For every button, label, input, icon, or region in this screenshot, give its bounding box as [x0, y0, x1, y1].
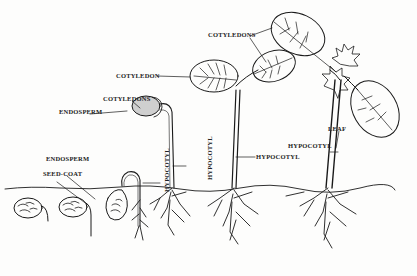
label-hypocotyl-stage4: HYPOCOTYL	[207, 136, 214, 180]
label-cotyledon: COTYLEDON	[116, 73, 160, 80]
label-leaf: LEAF	[328, 126, 346, 133]
label-hypocotyl-stage6: HYPOCOTYL	[288, 143, 332, 150]
label-cotyledons-mid: COTYLEDONS	[103, 96, 151, 103]
germination-diagram: COTYLEDON COTYLEDONS COTYLEDONS ENDOSPER…	[0, 0, 417, 276]
seed-stage-1	[14, 198, 48, 221]
seed-stage-2	[59, 197, 91, 236]
label-cotyledons-right: COTYLEDONS	[208, 32, 256, 39]
seedling-stage-3	[106, 172, 148, 240]
label-endosperm-lower: ENDOSPERM	[46, 156, 89, 163]
label-endosperm-upper: ENDOSPERM	[59, 109, 102, 116]
label-seed-coat: SEED-COAT	[43, 171, 82, 178]
seedling-stage-4	[132, 96, 190, 235]
soil-line	[5, 184, 395, 192]
label-hypocotyl-stage5: HYPOCOTYL	[256, 154, 300, 161]
label-hypocotyl-stage3: HYPOCOTYL	[164, 148, 171, 192]
true-leaf-lower	[322, 66, 350, 98]
true-leaf-upper	[332, 44, 360, 66]
